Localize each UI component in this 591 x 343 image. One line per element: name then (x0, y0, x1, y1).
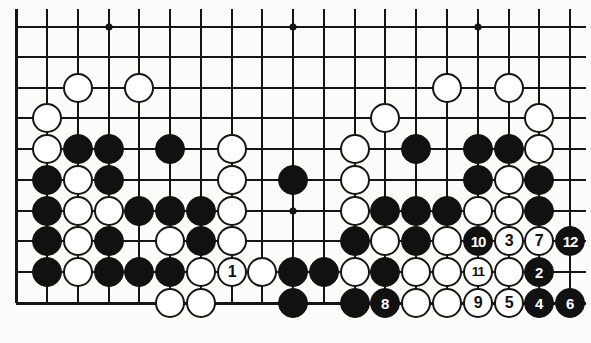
star-point (474, 23, 481, 30)
white-stone (94, 196, 124, 226)
black-stone (401, 196, 431, 226)
white-stone (494, 196, 524, 226)
white-stone (217, 196, 247, 226)
black-stone (186, 226, 216, 256)
black-stone (340, 226, 370, 256)
black-stone (124, 196, 154, 226)
black-stone (94, 165, 124, 195)
numbered-stone-5: 5 (494, 288, 524, 318)
white-stone (401, 257, 431, 287)
move-number: 2 (535, 264, 543, 279)
numbered-stone-1: 1 (217, 257, 247, 287)
white-stone (370, 226, 400, 256)
numbered-stone-4: 4 (524, 288, 554, 318)
black-stone (524, 165, 554, 195)
star-point (289, 207, 296, 214)
numbered-stone-7: 7 (524, 226, 554, 256)
white-stone (247, 257, 277, 287)
black-stone (155, 134, 185, 164)
white-stone (340, 196, 370, 226)
white-stone (340, 257, 370, 287)
black-stone (32, 226, 62, 256)
numbered-stone-3: 3 (494, 226, 524, 256)
black-stone (186, 196, 216, 226)
white-stone (186, 257, 216, 287)
white-stone (432, 73, 462, 103)
white-stone (63, 196, 93, 226)
go-diagram: 103712111289546 (0, 0, 591, 343)
move-number: 12 (563, 233, 578, 248)
white-stone (63, 226, 93, 256)
black-stone (94, 257, 124, 287)
white-stone (401, 288, 431, 318)
black-stone (63, 134, 93, 164)
white-stone (32, 103, 62, 133)
white-stone (124, 73, 154, 103)
black-stone (278, 257, 308, 287)
black-stone (401, 134, 431, 164)
black-stone (278, 165, 308, 195)
white-stone (524, 134, 554, 164)
black-stone (463, 165, 493, 195)
white-stone (63, 257, 93, 287)
black-stone (494, 134, 524, 164)
black-stone (32, 257, 62, 287)
move-number: 11 (472, 265, 484, 279)
white-stone (217, 134, 247, 164)
black-stone (155, 257, 185, 287)
numbered-stone-10: 10 (463, 226, 493, 256)
black-stone (340, 288, 370, 318)
black-stone (32, 196, 62, 226)
black-stone (401, 226, 431, 256)
white-stone (217, 165, 247, 195)
white-stone (155, 226, 185, 256)
white-stone (463, 196, 493, 226)
numbered-stone-6: 6 (555, 288, 585, 318)
black-stone (309, 257, 339, 287)
numbered-stone-8: 8 (370, 288, 400, 318)
white-stone (63, 73, 93, 103)
move-number: 1 (228, 264, 236, 280)
black-stone (155, 196, 185, 226)
star-point (105, 23, 112, 30)
black-stone (278, 288, 308, 318)
white-stone (370, 103, 400, 133)
move-number: 6 (566, 295, 574, 310)
move-number: 4 (535, 295, 543, 310)
black-stone (94, 226, 124, 256)
star-point (289, 23, 296, 30)
move-number: 8 (381, 295, 389, 310)
white-stone (63, 165, 93, 195)
white-stone (432, 226, 462, 256)
white-stone (340, 134, 370, 164)
white-stone (155, 288, 185, 318)
numbered-stone-9: 9 (463, 288, 493, 318)
white-stone (494, 73, 524, 103)
black-stone (463, 134, 493, 164)
white-stone (32, 134, 62, 164)
black-stone (432, 196, 462, 226)
black-stone (32, 165, 62, 195)
move-number: 3 (505, 233, 513, 249)
white-stone (340, 165, 370, 195)
black-stone (94, 134, 124, 164)
black-stone (124, 257, 154, 287)
white-stone (494, 165, 524, 195)
white-stone (432, 257, 462, 287)
white-stone (186, 288, 216, 318)
white-stone (432, 288, 462, 318)
black-stone (370, 196, 400, 226)
move-number: 5 (505, 295, 513, 311)
black-stone (524, 196, 554, 226)
white-stone (217, 226, 247, 256)
move-number: 10 (471, 233, 486, 248)
move-number: 9 (474, 295, 482, 311)
white-stone (524, 103, 554, 133)
black-stone (370, 257, 400, 287)
numbered-stone-11: 11 (463, 257, 493, 287)
move-number: 7 (535, 233, 543, 249)
white-stone (494, 257, 524, 287)
numbered-stone-12: 12 (555, 226, 585, 256)
numbered-stone-2: 2 (524, 257, 554, 287)
